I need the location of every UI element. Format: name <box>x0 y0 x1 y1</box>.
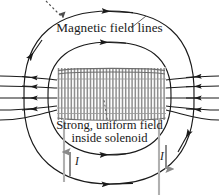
label-strong-uniform-field: Strong, uniform field inside solenoid <box>56 119 163 145</box>
solenoid-field-diagram: Magnetic field lines Strong, uniform fie… <box>0 0 219 195</box>
solenoid-coil <box>57 67 166 121</box>
label-current-left: I <box>75 155 79 167</box>
leader-dotted-top-icon <box>46 1 61 16</box>
label-current-right: I <box>160 150 164 162</box>
label-strong-uniform-line2: inside solenoid <box>56 132 163 145</box>
field-line-arrowheads-right <box>186 77 198 110</box>
label-magnetic-field-lines: Magnetic field lines <box>56 21 162 35</box>
